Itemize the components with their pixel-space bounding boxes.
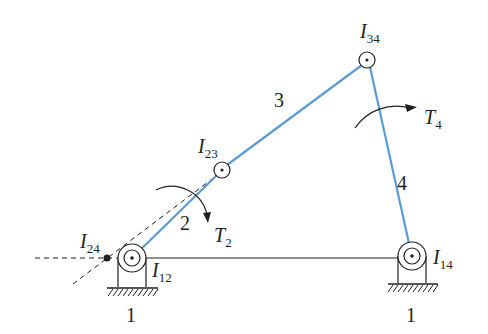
- linkage-diagram: 3 2 4 1 1 I12 I23 I34 I14 I24 T2 T4: [0, 0, 488, 334]
- label-t2: T2: [214, 224, 232, 250]
- link-3: [227, 65, 362, 165]
- link-label-4: 4: [397, 172, 407, 194]
- label-t4: T4: [424, 106, 442, 132]
- label-i23: I23: [197, 135, 218, 161]
- pivot-i12: [107, 244, 158, 296]
- ground-label-right: 1: [406, 304, 416, 326]
- construction-line-diagonal: [73, 176, 216, 284]
- label-i14: I14: [432, 246, 453, 272]
- link-label-3: 3: [274, 89, 284, 111]
- label-i12: I12: [151, 259, 172, 285]
- link-4: [370, 67, 410, 248]
- link-label-2: 2: [180, 212, 190, 234]
- label-i24: I24: [79, 230, 100, 256]
- joint-i34: [359, 52, 375, 68]
- instant-center-i24-dot: [104, 255, 111, 262]
- pivot-i14: [388, 242, 438, 292]
- joint-i23: [214, 162, 230, 178]
- torque-arrow-t4: [355, 104, 417, 128]
- ground-label-left: 1: [126, 304, 136, 326]
- label-i34: I34: [359, 20, 380, 46]
